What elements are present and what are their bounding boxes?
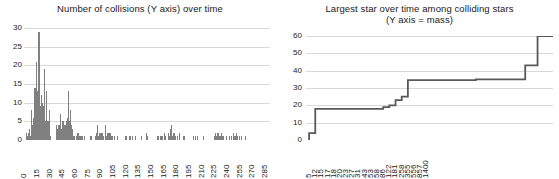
collisions-plot-row: 051015202530 (0, 28, 280, 140)
largest-star-plot-area (306, 36, 553, 140)
y-tick-label: 0 (18, 136, 22, 144)
step-line-path (309, 36, 553, 140)
y-tick-label: 40 (293, 67, 302, 75)
collisions-plot-wrap: 051015202530 015304560759010512013515016… (0, 28, 280, 140)
x-tick (547, 140, 553, 179)
y-tick-label: 30 (13, 24, 22, 32)
collisions-x-axis-labels: 0153045607590105120135150165180195210225… (24, 140, 270, 179)
largest-star-title-sub: (Y axis = mass) (280, 14, 559, 25)
collisions-plot-area (24, 28, 270, 140)
largest-star-x-axis-labels: 5121517182023273143535886122181258355556… (306, 140, 553, 179)
largest-star-chart-panel: Largest star over time among colliding s… (280, 0, 559, 179)
x-tick (270, 140, 271, 179)
x-tick-row: 0153045607590105120135150165180195210225… (24, 140, 270, 179)
largest-star-plot-wrap: 0102030405060 51215171820232731435358861… (280, 36, 559, 140)
largest-star-plot-row: 0102030405060 (280, 36, 559, 140)
y-tick-label: 15 (13, 80, 22, 88)
collisions-chart-panel: Number of collisions (Y axis) over time … (0, 0, 280, 179)
y-tick-label: 10 (13, 99, 22, 107)
y-tick-label: 20 (293, 101, 302, 109)
y-tick-label: 0 (298, 136, 302, 144)
step-line-series (306, 36, 553, 140)
collisions-y-axis-labels: 051015202530 (2, 28, 22, 140)
collisions-chart-title: Number of collisions (Y axis) over time (0, 0, 280, 14)
largest-star-title-main: Largest star over time among colliding s… (325, 3, 513, 14)
y-tick-label: 60 (293, 32, 302, 40)
largest-star-y-axis-labels: 0102030405060 (282, 36, 302, 140)
charts-page: Number of collisions (Y axis) over time … (0, 0, 559, 179)
y-tick-label: 20 (13, 61, 22, 69)
y-tick-label: 30 (293, 84, 302, 92)
largest-star-chart-title: Largest star over time among colliding s… (280, 0, 559, 25)
bar-series (24, 28, 270, 140)
y-tick-label: 5 (18, 117, 22, 125)
y-tick-label: 10 (293, 119, 302, 127)
y-tick-label: 50 (293, 49, 302, 57)
x-tick-row: 5121517182023273143535886122181258355556… (306, 140, 553, 179)
y-tick-label: 25 (13, 43, 22, 51)
